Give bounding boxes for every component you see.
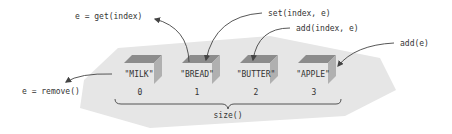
size-label: size() (214, 111, 243, 120)
element-index: 3 (312, 88, 317, 97)
list-diagram: "MILK" 0 "BREAD" 1 "BUTTER" 2 "APPLE" 3 … (0, 0, 452, 134)
element-value: "BUTTER" (237, 70, 276, 79)
element-index: 1 (195, 88, 200, 97)
add-operation-label: add(e) (400, 39, 429, 48)
element-value: "APPLE" (296, 70, 330, 79)
add-index-operation-label: add(index, e) (296, 24, 359, 33)
element-index: 0 (138, 88, 143, 97)
get-operation-label: e = get(index) (75, 12, 142, 21)
element-value: "MILK" (125, 70, 154, 79)
set-operation-label: set(index, e) (268, 9, 331, 18)
element-value: "BREAD" (180, 70, 214, 79)
remove-operation-label: e = remove() (22, 87, 80, 96)
element-index: 2 (254, 88, 259, 97)
